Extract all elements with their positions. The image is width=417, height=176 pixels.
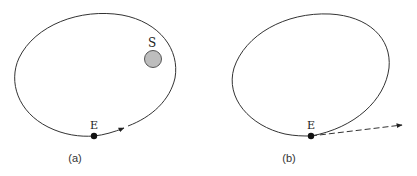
body-e-a [91, 133, 97, 139]
body-label-a: E [90, 119, 98, 132]
body-label-b: E [307, 119, 315, 132]
panel-a: S E (a) [15, 13, 176, 164]
caption-b: (b) [282, 152, 295, 164]
escape-trajectory-b [311, 125, 402, 136]
orbit-b-path [232, 14, 389, 136]
orbit-figure: S E (a) E (b) [0, 0, 417, 176]
caption-a: (a) [68, 152, 81, 164]
orbit-a-path [15, 13, 176, 136]
body-e-b [308, 133, 314, 139]
sun-s [145, 51, 162, 68]
panel-b: E (b) [232, 14, 402, 164]
velocity-arrow-a [94, 128, 124, 136]
sun-label: S [148, 36, 156, 50]
